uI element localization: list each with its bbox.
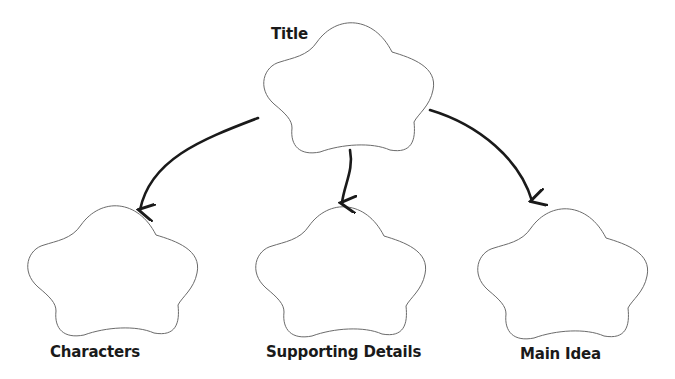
label-characters: Characters [50,343,140,361]
cloud-characters[interactable] [28,206,198,336]
label-main-idea: Main Idea [520,345,601,363]
label-supporting-details: Supporting Details [266,343,421,361]
cloud-supporting-details[interactable] [256,207,426,337]
arrow-title-to-supporting-details [342,150,351,203]
arrow-title-to-main-idea [430,110,532,201]
label-title: Title [271,25,308,43]
arrow-title-to-characters [140,118,258,210]
organizer-canvas [0,0,675,379]
cloud-main-idea[interactable] [478,209,648,339]
